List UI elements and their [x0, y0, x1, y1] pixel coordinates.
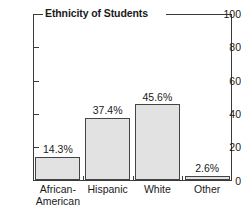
bar-chart: Ethnicity of Students 020406080100 14.3%… [0, 0, 241, 220]
x-tick-mark [133, 176, 134, 181]
bar [135, 104, 180, 180]
y-tick-label: 100 [212, 9, 241, 19]
y-tick-mark [34, 47, 39, 48]
y-tick-mark [34, 114, 39, 115]
y-tick-mark [34, 81, 39, 82]
chart-title: Ethnicity of Students [45, 7, 148, 20]
x-tick-mark [182, 176, 183, 181]
y-tick-label: 60 [212, 76, 241, 86]
y-tick-label: 20 [212, 142, 241, 152]
bar [35, 157, 80, 181]
bar [85, 118, 130, 180]
y-tick-label: 40 [212, 109, 241, 119]
bar-value-label: 45.6% [127, 92, 187, 103]
x-tick-mark [83, 176, 84, 181]
bar-value-label: 14.3% [28, 144, 88, 155]
x-category-label: Other [175, 184, 239, 196]
bar [185, 176, 230, 180]
frame-top-left-segment [33, 14, 43, 15]
bar-value-label: 37.4% [78, 105, 138, 116]
bar-value-label: 2.6% [177, 163, 237, 174]
y-tick-label: 80 [212, 42, 241, 52]
